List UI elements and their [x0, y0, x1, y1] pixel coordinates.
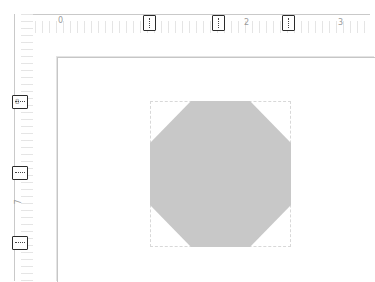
- octagon-shape[interactable]: [150, 101, 291, 247]
- margin-marker-top[interactable]: 8: [12, 95, 28, 109]
- horizontal-ruler[interactable]: [14, 14, 370, 33]
- tab-marker-1[interactable]: [143, 15, 156, 31]
- tab-marker-2[interactable]: [212, 15, 225, 31]
- tab-marker-3[interactable]: [282, 15, 295, 31]
- marker-label: 8: [15, 98, 19, 106]
- ruler-label-3: 3: [338, 19, 343, 27]
- ruler-label-7: 7: [15, 199, 23, 204]
- margin-marker-mid[interactable]: [12, 166, 28, 180]
- ruler-label-0: 0: [58, 17, 63, 25]
- margin-marker-bottom[interactable]: [12, 236, 28, 250]
- ruler-label-2: 2: [244, 19, 249, 27]
- octagon-icon: [150, 101, 291, 247]
- horizontal-ruler-ticks: [14, 21, 370, 33]
